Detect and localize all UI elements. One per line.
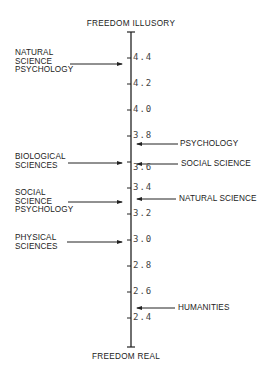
bottom-label-freedom-real: FREEDOM REAL xyxy=(92,352,160,361)
right-category-label: HUMANITIES xyxy=(178,304,230,313)
tick-label: 3.6 xyxy=(133,162,152,172)
tick-label: 3.4 xyxy=(133,182,152,192)
tick-label: 3.2 xyxy=(133,208,152,218)
tick-label: 3.0 xyxy=(133,234,152,244)
label-line: PSYCHOLOGY xyxy=(15,66,73,75)
label-line: SCIENCES xyxy=(15,243,58,252)
tick-label: 2.8 xyxy=(133,260,152,270)
left-category-label: NATURALSCIENCEPSYCHOLOGY xyxy=(15,49,73,75)
label-line: SCIENCES xyxy=(15,162,66,171)
tick-label: 4.0 xyxy=(133,104,152,114)
top-label-freedom-illusory: FREEDOM ILLUSORY xyxy=(87,19,175,28)
left-category-label: BIOLOGICALSCIENCES xyxy=(15,153,66,170)
left-category-label: PHYSICALSCIENCES xyxy=(15,234,58,251)
tick-label: 4.2 xyxy=(133,78,152,88)
arrows xyxy=(67,64,178,308)
label-line: PSYCHOLOGY xyxy=(15,206,73,215)
tick-label: 2.6 xyxy=(133,286,152,296)
right-category-label: SOCIAL SCIENCE xyxy=(181,160,251,169)
left-category-label: SOCIALSCIENCEPSYCHOLOGY xyxy=(15,189,73,215)
tick-label: 4.4 xyxy=(133,52,152,62)
tick-label: 2.4 xyxy=(133,312,152,322)
right-category-label: NATURAL SCIENCE xyxy=(179,195,256,204)
right-category-label: PSYCHOLOGY xyxy=(180,140,238,149)
tick-label: 3.8 xyxy=(133,130,152,140)
freedom-scale-diagram: FREEDOM ILLUSORY FREEDOM REAL 4.44.24.03… xyxy=(0,0,266,377)
